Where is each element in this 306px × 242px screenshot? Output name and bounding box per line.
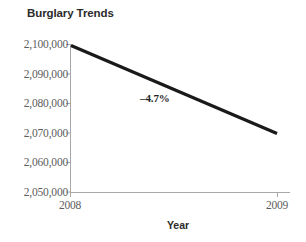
data-line-burglaries — [71, 46, 277, 134]
series-change-annotation: –4.7% — [140, 92, 170, 104]
x-tick-label-2009: 2009 — [252, 199, 302, 211]
y-tick-label-2100000: 2,100,000 — [10, 38, 68, 50]
y-tick-label-2050000: 2,050,000 — [10, 186, 68, 198]
y-tick-label-2080000: 2,080,000 — [10, 97, 68, 109]
y-tick-label-2070000: 2,070,000 — [10, 127, 68, 139]
x-axis-title: Year — [148, 219, 208, 231]
x-tick-label-2008: 2008 — [45, 199, 95, 211]
chart-figure: Burglary Trends 2,100,000 2,090,000 2,08… — [0, 0, 306, 242]
y-tick-label-2090000: 2,090,000 — [10, 68, 68, 80]
y-tick-label-2060000: 2,060,000 — [10, 156, 68, 168]
